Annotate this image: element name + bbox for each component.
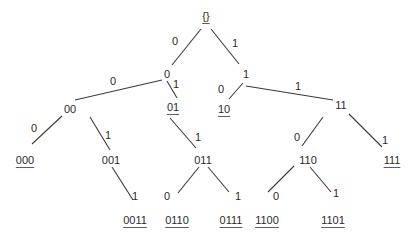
binary-trie-diagram: 0101010110110101{}0100011011000001011110…	[0, 0, 418, 236]
leaf-node: 0111	[220, 214, 243, 226]
edge-110-1101	[310, 167, 331, 192]
leaf-node: 000	[16, 154, 34, 166]
edge-label: 0	[172, 35, 178, 47]
edge-label: 1	[173, 78, 179, 90]
edge-0-00	[75, 80, 162, 100]
edge-label: 1	[382, 134, 388, 146]
edge-label: 1	[132, 190, 138, 202]
leaf-node: 1100	[255, 214, 279, 226]
edge-label: 1	[105, 129, 111, 141]
edge-001-0011	[112, 167, 133, 200]
edge-label: 1	[195, 131, 201, 143]
edge-11-111	[349, 114, 382, 147]
tree-node: 11	[335, 99, 346, 111]
edge-label: 1	[235, 190, 241, 202]
edge-011-0110	[178, 167, 199, 193]
leaf-node: 0110	[165, 214, 189, 226]
tree-node: 001	[102, 154, 120, 166]
edge-110-1100	[268, 166, 294, 192]
tree-node: 110	[299, 154, 317, 166]
tree-node: 1	[243, 68, 249, 80]
edge-label: 1	[333, 187, 339, 199]
tree-node: 011	[194, 154, 212, 166]
edge-label: 1	[232, 37, 238, 49]
edge-1-10	[229, 83, 243, 99]
edge-01-011	[170, 118, 196, 148]
leaf-node: 0011	[123, 214, 147, 226]
edge-label: 0	[110, 75, 116, 87]
edge-label: 1	[295, 80, 301, 92]
leaf-node: 1101	[321, 214, 345, 226]
edge-11-110	[302, 117, 323, 146]
tree-node: 00	[64, 103, 76, 115]
leaf-node: {}	[202, 10, 209, 22]
leaf-node: 01	[167, 101, 179, 113]
edge-1-11	[246, 86, 333, 100]
edge-label: 0	[164, 190, 170, 202]
tree-edges	[0, 0, 418, 236]
leaf-node: 10	[218, 103, 230, 115]
edge-label: 0	[273, 190, 279, 202]
edge-label: 0	[294, 131, 300, 143]
tree-node: 0	[164, 68, 170, 80]
edge-011-0111	[208, 167, 229, 192]
edge-label: 0	[31, 122, 37, 134]
leaf-node: 111	[384, 154, 401, 166]
edge-label: 0	[218, 83, 224, 95]
